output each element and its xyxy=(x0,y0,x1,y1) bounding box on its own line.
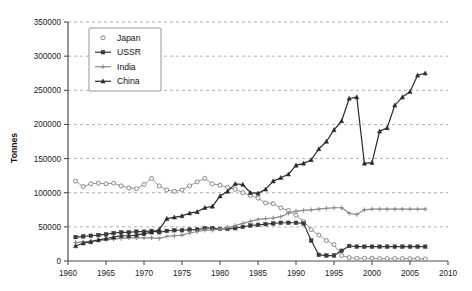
data-point xyxy=(423,245,427,249)
data-point xyxy=(96,181,100,185)
data-point xyxy=(165,234,169,238)
data-point xyxy=(385,257,389,261)
data-point xyxy=(248,219,252,223)
x-tick-label: 1985 xyxy=(249,269,268,278)
x-tick-label: 1990 xyxy=(287,269,306,278)
data-point xyxy=(309,239,313,243)
data-point xyxy=(180,233,184,237)
y-axis-title: Tonnes xyxy=(9,133,19,163)
data-point xyxy=(89,182,93,186)
data-point xyxy=(309,228,313,232)
data-point xyxy=(150,176,154,180)
data-point xyxy=(347,244,351,248)
data-point xyxy=(401,245,405,249)
data-point xyxy=(355,245,359,249)
data-point xyxy=(332,206,336,210)
series-ussr xyxy=(74,221,427,257)
series-layer xyxy=(73,71,427,261)
x-axis: 1960196519701975198019851990199520002005… xyxy=(59,261,458,278)
data-point xyxy=(279,206,283,210)
data-point xyxy=(377,207,381,211)
data-point xyxy=(188,184,192,188)
y-tick-label: 350000 xyxy=(34,18,62,27)
data-point xyxy=(256,196,260,200)
data-point xyxy=(271,216,275,220)
data-point xyxy=(172,189,176,193)
y-tick-label: 0 xyxy=(56,257,61,266)
data-point xyxy=(370,256,374,260)
data-point xyxy=(210,182,214,186)
data-point xyxy=(393,207,397,211)
x-tick-label: 1995 xyxy=(325,269,344,278)
data-point xyxy=(416,245,420,249)
data-point xyxy=(256,217,260,221)
legend-label: India xyxy=(117,62,136,72)
data-point xyxy=(74,235,78,239)
data-point xyxy=(408,207,412,211)
data-point xyxy=(385,126,389,130)
chart-container: 0500001000001500002000002500003000003500… xyxy=(0,0,472,291)
data-point xyxy=(142,236,146,240)
data-point xyxy=(400,257,404,261)
data-point xyxy=(119,184,123,188)
legend-marker xyxy=(101,50,105,54)
y-tick-label: 250000 xyxy=(34,86,62,95)
y-tick-label: 200000 xyxy=(34,120,62,129)
data-point xyxy=(385,245,389,249)
data-point xyxy=(301,208,305,212)
data-point xyxy=(271,222,275,226)
data-point xyxy=(149,236,153,240)
data-point xyxy=(279,214,283,218)
data-point xyxy=(317,253,321,257)
data-point xyxy=(400,207,404,211)
y-tick-label: 300000 xyxy=(34,52,62,61)
x-tick-label: 1965 xyxy=(97,269,116,278)
data-point xyxy=(142,183,146,187)
x-tick-label: 1960 xyxy=(59,269,78,278)
data-point xyxy=(81,235,85,239)
data-point xyxy=(134,187,138,191)
data-point xyxy=(423,71,427,75)
data-point xyxy=(264,201,268,205)
data-point xyxy=(195,180,199,184)
data-point xyxy=(89,234,93,238)
data-point xyxy=(324,239,328,243)
data-point xyxy=(423,207,427,211)
data-point xyxy=(332,243,336,247)
series-japan xyxy=(74,176,428,261)
data-point xyxy=(97,233,101,237)
data-point xyxy=(203,176,207,180)
data-point xyxy=(294,209,298,213)
data-point xyxy=(340,254,344,258)
data-point xyxy=(362,256,366,260)
x-tick-label: 1975 xyxy=(173,269,192,278)
data-point xyxy=(287,221,291,225)
data-point xyxy=(256,223,260,227)
data-point xyxy=(180,228,184,232)
data-point xyxy=(378,257,382,261)
data-point xyxy=(408,257,412,261)
x-tick-label: 2005 xyxy=(401,269,420,278)
data-point xyxy=(340,249,344,253)
data-point xyxy=(81,185,85,189)
data-point xyxy=(332,254,336,258)
x-tick-label: 1970 xyxy=(135,269,154,278)
data-point xyxy=(172,234,176,238)
chart-legend: JapanUSSRIndiaChina xyxy=(89,28,161,91)
data-point xyxy=(416,257,420,261)
data-point xyxy=(393,245,397,249)
data-point xyxy=(173,228,177,232)
data-point xyxy=(370,207,374,211)
data-point xyxy=(112,181,116,185)
y-axis: 0500001000001500002000002500003000003500… xyxy=(34,18,68,266)
data-point xyxy=(74,179,78,183)
y-tick-label: 50000 xyxy=(38,223,61,232)
data-point xyxy=(415,207,419,211)
data-point xyxy=(325,254,329,258)
data-point xyxy=(104,182,108,186)
legend-label: Japan xyxy=(117,33,141,43)
data-point xyxy=(127,186,131,190)
legend-marker xyxy=(101,36,105,40)
data-point xyxy=(302,222,306,226)
data-point xyxy=(324,206,328,210)
